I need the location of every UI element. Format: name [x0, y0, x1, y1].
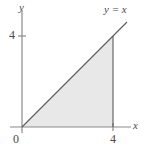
y-axis-label: y	[19, 2, 24, 13]
plot-canvas	[0, 0, 149, 154]
x-axis-tick-label-4: 4	[110, 133, 116, 145]
y-axis-tick-label-4: 4	[9, 29, 15, 41]
figure-graph-y-equals-x: y x y = x 0 4 4	[0, 0, 149, 154]
origin-tick-label: 0	[13, 133, 19, 145]
x-axis-label: x	[133, 120, 138, 131]
line-equation-label: y = x	[104, 4, 127, 15]
